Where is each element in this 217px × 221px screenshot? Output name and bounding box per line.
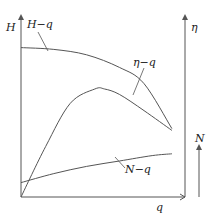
eta-q-label: η−q [133, 56, 156, 69]
curve--q [21, 88, 172, 197]
n-axis-label: N [194, 132, 205, 145]
q-axis-label: q [156, 201, 163, 214]
eta-axis-label: η [191, 21, 198, 34]
pump-performance-chart: H q η N H−q η−q N−q [0, 0, 217, 221]
n-q-label: N−q [124, 163, 151, 176]
n-q-leader [115, 157, 125, 168]
h-axis-label: H [5, 21, 16, 34]
h-q-label: H−q [26, 18, 53, 31]
